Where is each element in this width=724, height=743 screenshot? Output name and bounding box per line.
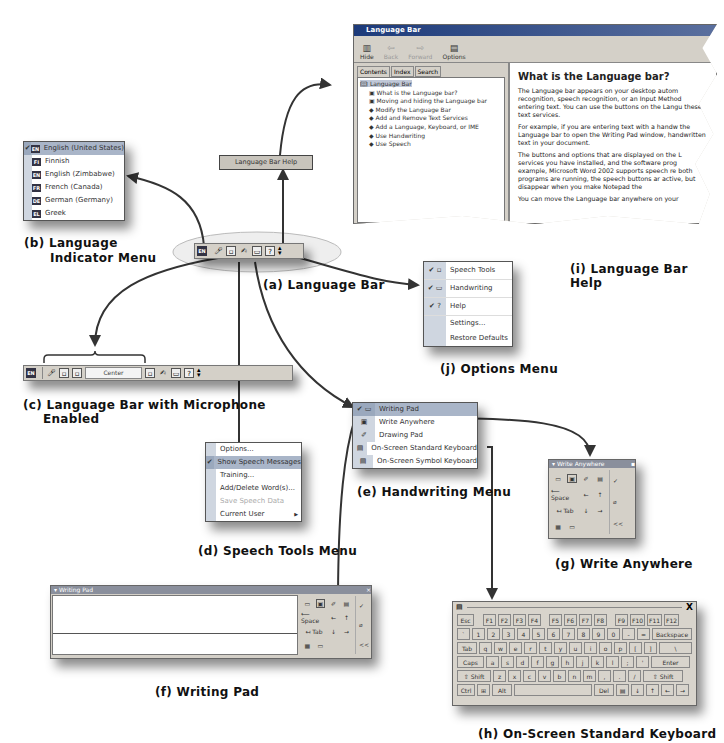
arrow-right-icon[interactable]: → (597, 507, 602, 514)
key[interactable]: j (576, 656, 589, 668)
language-item-greek[interactable]: ELGreek (24, 207, 124, 220)
pad-icon[interactable]: ▭ (318, 642, 324, 649)
close-icon[interactable]: × (366, 586, 371, 594)
arrow-up-icon[interactable]: ↑ (597, 491, 602, 498)
key-f4[interactable]: F4 (528, 614, 541, 626)
key[interactable]: z (493, 670, 506, 682)
key[interactable]: . (613, 670, 626, 682)
key[interactable]: ` (457, 628, 470, 640)
collapse-button[interactable]: << (359, 641, 369, 648)
microphone-icon[interactable]: 🎤︎ (46, 368, 56, 378)
language-item-finnish[interactable]: FIFinnish (24, 155, 124, 168)
tree-item[interactable]: ◆ Add a Language, Keyboard, or IME (360, 123, 502, 132)
writing-pad-icon[interactable]: ▭ (252, 246, 262, 256)
drawing-icon[interactable]: ✐ (583, 475, 588, 482)
key-right-shift[interactable]: ⇧ Shift (643, 670, 683, 682)
handwriting-icon[interactable]: ✍︎ (158, 368, 168, 378)
options-chevron-icon[interactable]: ▴▾ (197, 368, 201, 378)
key[interactable]: g (546, 656, 559, 668)
key[interactable]: y (554, 642, 567, 654)
key[interactable]: m (583, 670, 596, 682)
tree-item[interactable]: ◆ Use Handwriting (360, 132, 502, 141)
key[interactable]: 6 (547, 628, 560, 640)
tree-item-language-bar[interactable]: 📖︎ Language Bar (360, 80, 412, 87)
speech-tools-icon[interactable]: ▫ (145, 368, 155, 378)
options-item-restore-defaults[interactable]: Restore Defaults (424, 331, 512, 346)
handwriting-item-drawing-pad[interactable]: ✐Drawing Pad (353, 429, 477, 442)
arrow-left-icon[interactable]: ← (331, 614, 336, 621)
space-button[interactable]: ⟵ Space (301, 610, 327, 624)
help-icon[interactable]: ? (184, 368, 194, 378)
arrow-left-icon[interactable]: ← (583, 491, 588, 498)
options-button[interactable]: ▤Options (442, 43, 465, 60)
collapse-button[interactable]: << (613, 520, 623, 527)
voice-command-icon[interactable]: ▫ (72, 368, 82, 378)
language-item-english-zimbabwe[interactable]: ENEnglish (Zimbabwe) (24, 168, 124, 181)
key-backspace[interactable]: Backspace (652, 628, 692, 640)
arrow-right-icon[interactable]: → (344, 628, 349, 635)
tab-contents[interactable]: Contents (357, 66, 390, 77)
key[interactable]: 1 (472, 628, 485, 640)
key[interactable]: 2 (487, 628, 500, 640)
close-icon[interactable]: ▪ (631, 460, 635, 468)
eraser-icon[interactable]: ⌀ (359, 621, 369, 628)
key-esc[interactable]: Esc (457, 614, 474, 626)
handwriting-item-write-anywhere[interactable]: ▣Write Anywhere (353, 416, 477, 429)
tab-search[interactable]: Search (415, 66, 442, 77)
tree-item[interactable]: ▣ What is the Language bar? (360, 89, 502, 98)
key[interactable]: x (508, 670, 521, 682)
tree-item[interactable]: ◆ Use Speech (360, 140, 502, 149)
correction-icon[interactable]: ▦ (305, 642, 311, 649)
key[interactable]: 3 (502, 628, 515, 640)
key[interactable]: 8 (577, 628, 590, 640)
speech-item-current-user[interactable]: Current User▶ (206, 508, 301, 521)
key[interactable]: q (479, 642, 492, 654)
eraser-icon[interactable]: ⌀ (613, 498, 623, 505)
help-icon[interactable]: ? (265, 246, 275, 256)
key[interactable]: p (614, 642, 627, 654)
options-chevron-icon[interactable]: ▴▾ (278, 246, 282, 256)
clear-icon[interactable]: ▭ (305, 600, 311, 607)
clear-icon[interactable]: ▭ (555, 475, 561, 482)
options-item-help[interactable]: ✔ ?Help (424, 298, 512, 316)
key[interactable]: [ (629, 642, 642, 654)
options-item-speech-tools[interactable]: ✔ ▫Speech Tools (424, 262, 512, 280)
key-space[interactable] (514, 684, 592, 696)
language-item-english-us[interactable]: ✔ENEnglish (United States) (24, 142, 124, 155)
key[interactable]: ' (636, 656, 649, 668)
key[interactable]: 4 (517, 628, 530, 640)
keyboard-icon[interactable]: ▤ (597, 475, 603, 482)
key[interactable]: 0 (607, 628, 620, 640)
options-item-settings[interactable]: Settings... (424, 316, 512, 331)
correction-icon[interactable]: ▦ (555, 523, 561, 530)
key-f11[interactable]: F11 (647, 614, 662, 626)
key[interactable]: r (524, 642, 537, 654)
key[interactable]: = (637, 628, 650, 640)
recognize-icon[interactable]: ✓ (359, 602, 369, 609)
language-item-german-germany[interactable]: DEGerman (Germany) (24, 194, 124, 207)
key[interactable]: 9 (592, 628, 605, 640)
recognize-icon[interactable]: ✓ (613, 477, 623, 484)
key[interactable]: o (599, 642, 612, 654)
key-arrow-down[interactable]: ↓ (631, 684, 644, 696)
close-button[interactable]: X (686, 602, 693, 612)
key-f1[interactable]: F1 (483, 614, 496, 626)
key-del[interactable]: Del (594, 684, 614, 696)
key-f2[interactable]: F2 (498, 614, 511, 626)
key-f7[interactable]: F7 (579, 614, 592, 626)
handwriting-icon[interactable]: ✍︎ (239, 246, 249, 256)
key-left-shift[interactable]: ⇧ Shift (457, 670, 491, 682)
language-item-french-canada[interactable]: FRFrench (Canada) (24, 181, 124, 194)
handwriting-item-writing-pad[interactable]: ✔ ▭Writing Pad (353, 403, 477, 416)
key[interactable]: e (509, 642, 522, 654)
key-arrow-up[interactable]: ↑ (646, 684, 659, 696)
dictation-icon[interactable]: ▫ (59, 368, 69, 378)
key[interactable]: v (538, 670, 551, 682)
options-item-handwriting[interactable]: ✔ ▭Handwriting (424, 280, 512, 298)
speech-item-options[interactable]: Options... (206, 443, 301, 456)
tab-button[interactable]: ↤ Tab (305, 628, 322, 635)
language-indicator-button[interactable]: EN (26, 368, 36, 378)
key[interactable]: u (569, 642, 582, 654)
key[interactable]: a (486, 656, 499, 668)
language-indicator-button[interactable]: EN (197, 246, 207, 256)
